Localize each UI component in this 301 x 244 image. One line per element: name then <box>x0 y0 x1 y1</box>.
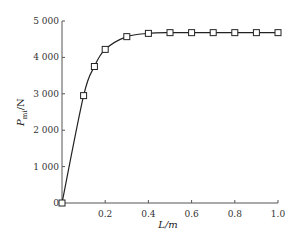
y-tick-label: 3 000 <box>33 89 59 99</box>
y-tick-label: 4 000 <box>33 52 59 62</box>
y-tick-label: 2 000 <box>33 125 59 135</box>
square-marker <box>210 30 216 36</box>
square-marker <box>232 30 238 36</box>
y-axis-title: Pmi/N <box>15 98 29 127</box>
square-marker <box>189 30 195 36</box>
x-axis: 0.20.40.60.81.0 <box>62 200 285 219</box>
x-tick-label: 1.0 <box>271 209 286 219</box>
y-tick-label: 5 000 <box>33 16 59 26</box>
x-tick-label: 0.8 <box>228 209 243 219</box>
square-marker <box>59 200 65 206</box>
line-chart: 01 0002 0003 0004 0005 000 0.20.40.60.81… <box>0 0 301 244</box>
data-markers <box>59 30 281 206</box>
square-marker <box>145 30 151 36</box>
y-tick-label: 0 <box>53 198 59 208</box>
square-marker <box>81 93 87 99</box>
x-tick-label: 0.4 <box>141 209 156 219</box>
y-axis: 01 0002 0003 0004 0005 000 <box>33 16 65 208</box>
data-line <box>62 33 278 203</box>
y-axis-title-unit: /N <box>15 98 26 110</box>
square-marker <box>91 64 97 70</box>
square-marker <box>275 30 281 36</box>
x-tick-label: 0.6 <box>184 209 199 219</box>
square-marker <box>102 46 108 52</box>
square-marker <box>167 30 173 36</box>
square-marker <box>124 34 130 40</box>
x-axis-title: L/m <box>157 219 178 230</box>
square-marker <box>253 30 259 36</box>
x-tick-label: 0.2 <box>98 209 112 219</box>
y-tick-label: 1 000 <box>33 162 59 172</box>
